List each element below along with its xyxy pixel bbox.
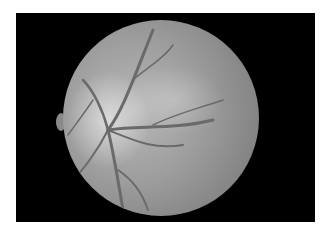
retina-fundus-image <box>63 20 259 216</box>
retinal-vessels <box>63 20 259 216</box>
